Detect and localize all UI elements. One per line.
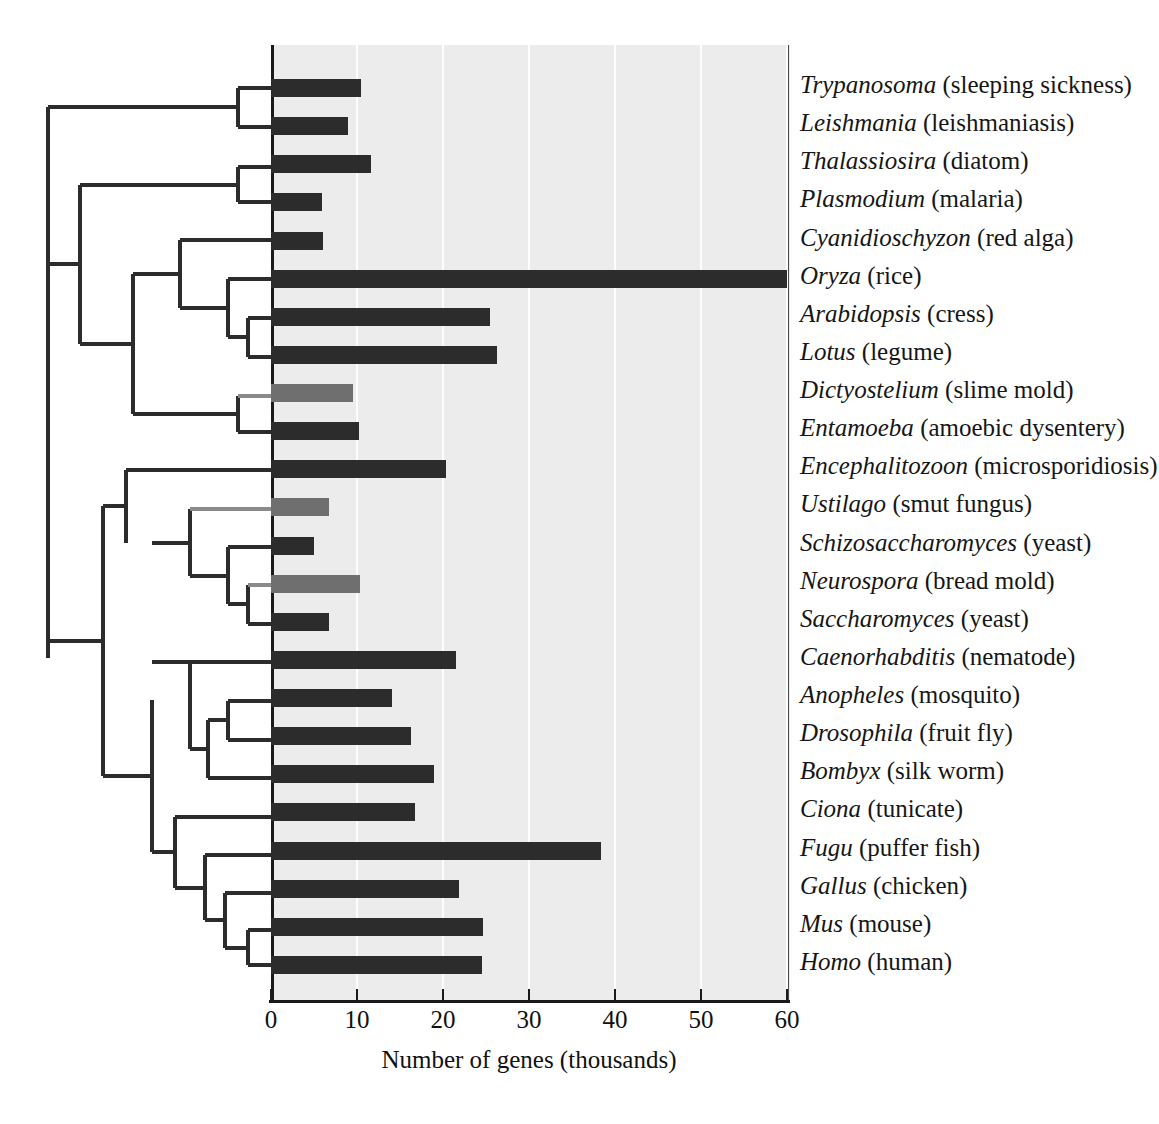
taxon-label-ustilago: Ustilago (smut fungus) — [800, 491, 1032, 516]
taxon-common-name: (puffer fish) — [853, 834, 980, 861]
bar-mus — [271, 918, 483, 936]
bar-ciona — [271, 803, 415, 821]
taxon-genus: Saccharomyces — [800, 605, 955, 632]
bar-ustilago — [271, 498, 329, 516]
taxon-label-schizosaccharomyces: Schizosaccharomyces (yeast) — [800, 530, 1091, 555]
tick-label-60: 60 — [757, 1006, 817, 1034]
taxon-common-name: (mouse) — [843, 910, 931, 937]
tick-40 — [614, 989, 616, 1003]
taxon-genus: Anopheles — [800, 681, 904, 708]
bar-fugu — [271, 842, 601, 860]
tick-20 — [442, 989, 444, 1003]
taxon-common-name: (red alga) — [971, 224, 1074, 251]
gene-number-phylogeny-figure: 0102030405060 Number of genes (thousands… — [0, 0, 1159, 1124]
tick-label-0: 0 — [241, 1006, 301, 1034]
bar-plasmodium — [271, 193, 322, 211]
taxon-label-mus: Mus (mouse) — [800, 911, 931, 936]
bar-homo — [271, 956, 482, 974]
taxon-label-homo: Homo (human) — [800, 949, 952, 974]
taxon-common-name: (legume) — [856, 338, 952, 365]
taxon-genus: Ustilago — [800, 490, 886, 517]
taxon-genus: Oryza — [800, 262, 861, 289]
taxon-genus: Cyanidioschyzon — [800, 224, 971, 251]
taxon-label-ciona: Ciona (tunicate) — [800, 796, 963, 821]
taxon-genus: Leishmania — [800, 109, 917, 136]
taxon-common-name: (malaria) — [925, 185, 1023, 212]
tick-30 — [528, 989, 530, 1003]
taxon-label-gallus: Gallus (chicken) — [800, 873, 967, 898]
taxon-label-bombyx: Bombyx (silk worm) — [800, 758, 1004, 783]
gridline-50 — [700, 45, 702, 1000]
taxon-label-thalassiosira: Thalassiosira (diatom) — [800, 148, 1029, 173]
taxon-genus: Caenorhabditis — [800, 643, 955, 670]
taxon-common-name: (rice) — [861, 262, 921, 289]
bar-cyanidioschyzon — [271, 232, 323, 250]
taxon-genus: Bombyx — [800, 757, 881, 784]
taxon-label-arabidopsis: Arabidopsis (cress) — [800, 301, 994, 326]
taxon-label-entamoeba: Entamoeba (amoebic dysentery) — [800, 415, 1125, 440]
gridline-40 — [614, 45, 616, 1000]
bar-schizosaccharomyces — [271, 537, 314, 555]
x-axis-title: Number of genes (thousands) — [271, 1046, 787, 1074]
bar-caenorhabditis — [271, 651, 456, 669]
taxon-genus: Schizosaccharomyces — [800, 529, 1017, 556]
taxon-label-anopheles: Anopheles (mosquito) — [800, 682, 1020, 707]
bar-encephalitozoon — [271, 460, 446, 478]
taxon-genus: Neurospora — [800, 567, 919, 594]
taxon-common-name: (sleeping sickness) — [936, 71, 1132, 98]
taxon-common-name: (microsporidiosis) — [968, 452, 1158, 479]
taxon-label-trypanosoma: Trypanosoma (sleeping sickness) — [800, 72, 1132, 97]
bar-dictyostelium — [271, 384, 353, 402]
taxon-common-name: (chicken) — [867, 872, 968, 899]
taxon-common-name: (tunicate) — [861, 795, 963, 822]
taxon-common-name: (silk worm) — [881, 757, 1005, 784]
taxon-label-encephalitozoon: Encephalitozoon (microsporidiosis) — [800, 453, 1158, 478]
taxon-genus: Dictyostelium — [800, 376, 939, 403]
taxon-common-name: (nematode) — [955, 643, 1075, 670]
taxon-genus: Entamoeba — [800, 414, 914, 441]
taxon-common-name: (human) — [861, 948, 952, 975]
taxon-genus: Lotus — [800, 338, 856, 365]
bar-anopheles — [271, 689, 392, 707]
taxon-label-caenorhabditis: Caenorhabditis (nematode) — [800, 644, 1075, 669]
taxon-genus: Mus — [800, 910, 843, 937]
bar-leishmania — [271, 117, 348, 135]
taxon-label-dictyostelium: Dictyostelium (slime mold) — [800, 377, 1074, 402]
taxon-label-oryza: Oryza (rice) — [800, 263, 921, 288]
bar-entamoeba — [271, 422, 359, 440]
bar-thalassiosira — [271, 155, 371, 173]
bar-saccharomyces — [271, 613, 329, 631]
bar-oryza — [271, 270, 787, 288]
taxon-common-name: (mosquito) — [904, 681, 1020, 708]
tick-label-10: 10 — [327, 1006, 387, 1034]
gridline-60 — [786, 45, 788, 1000]
taxon-label-saccharomyces: Saccharomyces (yeast) — [800, 606, 1029, 631]
bar-bombyx — [271, 765, 434, 783]
tick-label-20: 20 — [413, 1006, 473, 1034]
taxon-genus: Homo — [800, 948, 861, 975]
taxon-genus: Thalassiosira — [800, 147, 936, 174]
tick-60 — [786, 989, 788, 1003]
taxon-common-name: (cress) — [921, 300, 994, 327]
tick-label-40: 40 — [585, 1006, 645, 1034]
taxon-label-cyanidioschyzon: Cyanidioschyzon (red alga) — [800, 225, 1074, 250]
taxon-common-name: (amoebic dysentery) — [914, 414, 1125, 441]
taxon-genus: Trypanosoma — [800, 71, 936, 98]
cladogram-light-branches — [190, 396, 271, 585]
taxon-genus: Encephalitozoon — [800, 452, 968, 479]
taxon-genus: Arabidopsis — [800, 300, 921, 327]
taxon-common-name: (yeast) — [1017, 529, 1091, 556]
taxon-common-name: (diatom) — [936, 147, 1028, 174]
bar-lotus — [271, 346, 497, 364]
bar-neurospora — [271, 575, 360, 593]
taxon-label-leishmania: Leishmania (leishmaniasis) — [800, 110, 1074, 135]
bar-drosophila — [271, 727, 411, 745]
taxon-label-fugu: Fugu (puffer fish) — [800, 835, 980, 860]
taxon-genus: Gallus — [800, 872, 867, 899]
taxon-label-plasmodium: Plasmodium (malaria) — [800, 186, 1023, 211]
taxon-common-name: (slime mold) — [939, 376, 1074, 403]
cladogram-dark-branches — [48, 88, 271, 965]
taxon-genus: Plasmodium — [800, 185, 925, 212]
cladogram — [0, 0, 275, 1010]
taxon-genus: Drosophila — [800, 719, 913, 746]
